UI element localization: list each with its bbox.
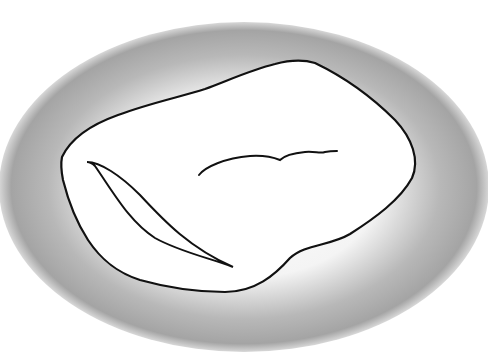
drawing-canvas [0,0,488,364]
stone-illustration [0,0,488,364]
